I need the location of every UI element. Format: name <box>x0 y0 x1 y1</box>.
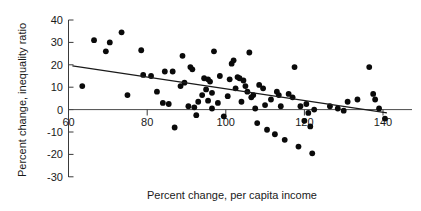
data-point <box>303 101 309 107</box>
y-axis-title: Percent change, inequality ratio <box>16 23 28 177</box>
data-point <box>217 73 223 79</box>
data-point <box>231 57 237 63</box>
data-point <box>376 106 382 112</box>
y-tick-label-40: 40 <box>51 14 63 26</box>
data-point <box>103 48 109 54</box>
data-point <box>296 144 302 150</box>
data-point <box>241 78 247 84</box>
data-point <box>172 125 178 131</box>
data-point <box>207 79 213 85</box>
x-axis-title: Percent change, per capita income <box>147 189 317 201</box>
y-tick-label-30: 30 <box>51 36 63 48</box>
data-point <box>307 124 313 130</box>
data-point <box>199 92 205 98</box>
data-point <box>91 37 97 43</box>
plot-canvas: 40 30 20 10 0 -10 -20 -30 60 80 100 120 … <box>0 0 421 211</box>
data-point <box>305 110 311 116</box>
data-point <box>225 93 231 99</box>
data-point <box>189 66 195 72</box>
data-point <box>272 131 278 137</box>
data-point <box>260 85 266 91</box>
y-tick-label-neg30: -30 <box>47 171 63 183</box>
data-point <box>292 64 298 70</box>
data-point <box>203 87 209 93</box>
data-point <box>107 40 113 46</box>
data-point <box>162 69 168 75</box>
data-point <box>311 107 317 113</box>
data-point <box>382 116 388 122</box>
trend-line <box>72 66 387 113</box>
data-point <box>170 69 176 75</box>
x-tick-label-60: 60 <box>62 116 74 128</box>
data-point <box>278 103 284 109</box>
data-point <box>227 76 233 82</box>
data-point <box>301 118 307 124</box>
data-point <box>341 108 347 114</box>
data-point <box>209 90 215 96</box>
scatter-plot-figure: 40 30 20 10 0 -10 -20 -30 60 80 100 120 … <box>0 0 421 211</box>
data-point <box>268 97 274 103</box>
data-point <box>215 100 221 106</box>
data-point <box>180 53 186 59</box>
data-point <box>309 150 315 156</box>
y-tick-label-10: 10 <box>51 81 63 93</box>
data-point <box>186 103 192 109</box>
data-point <box>205 98 211 104</box>
data-point <box>264 127 270 133</box>
data-point <box>345 99 351 105</box>
data-point <box>209 106 215 112</box>
x-tick-label-80: 80 <box>141 116 153 128</box>
y-tick-label-20: 20 <box>51 59 63 71</box>
data-point <box>119 29 125 35</box>
y-tick-label-0: 0 <box>57 104 63 116</box>
data-point <box>370 91 376 97</box>
data-point <box>211 48 217 54</box>
y-tick-label-neg20: -20 <box>47 148 63 160</box>
data-point <box>252 106 258 112</box>
data-point <box>221 113 227 119</box>
data-point <box>243 83 249 89</box>
data-point <box>239 99 245 105</box>
data-point <box>193 112 199 118</box>
data-point <box>79 83 85 89</box>
y-tick-label-neg10: -10 <box>47 126 63 138</box>
data-point <box>166 101 172 107</box>
scatter-points-layer <box>79 29 388 156</box>
data-point <box>160 100 166 106</box>
data-point <box>125 92 131 98</box>
data-point <box>246 50 252 56</box>
data-point <box>298 103 304 109</box>
data-point <box>366 64 372 70</box>
data-point <box>254 120 260 126</box>
data-point <box>372 97 378 103</box>
data-point <box>355 97 361 103</box>
data-point <box>191 104 197 110</box>
data-point <box>262 102 268 108</box>
data-point <box>195 99 201 105</box>
data-point <box>154 89 160 95</box>
data-point <box>282 137 288 143</box>
y-tick-marks <box>69 20 74 177</box>
data-point <box>138 47 144 53</box>
